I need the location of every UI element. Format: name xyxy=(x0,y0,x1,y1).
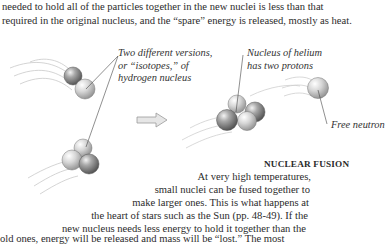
neutron-label: Free neutron xyxy=(331,119,385,132)
label-line: Two different versions, xyxy=(118,47,212,60)
caption-title: NUCLEAR FUSION xyxy=(264,159,349,169)
free-neutron-icon xyxy=(308,78,329,99)
caption-line: make larger ones. This is what happens a… xyxy=(132,196,309,209)
helium-nucleus-icon xyxy=(217,95,266,131)
label-line: hydrogen nucleus xyxy=(118,72,212,85)
caption-line: small nuclei can be fused together to xyxy=(155,183,310,196)
label-line: has two protons xyxy=(247,60,322,73)
caption-line: old ones, energy will be released and ma… xyxy=(0,232,284,245)
leader-line xyxy=(86,56,118,147)
hydrogen-isotope-icon xyxy=(62,139,99,174)
right-arrow-icon xyxy=(137,113,167,127)
caption-line: At very high temperatures, xyxy=(197,170,311,183)
label-line: or “isotopes,” of xyxy=(118,60,212,73)
label-line: Nucleus of helium xyxy=(247,47,322,60)
caption-line: the heart of stars such as the Sun (pp. … xyxy=(91,209,308,222)
isotopes-label: Two different versions, or “isotopes,” o… xyxy=(118,47,212,85)
helium-label: Nucleus of helium has two protons xyxy=(247,47,322,72)
hydrogen-isotope-icon xyxy=(64,67,95,99)
motion-streak-icon xyxy=(10,59,72,90)
